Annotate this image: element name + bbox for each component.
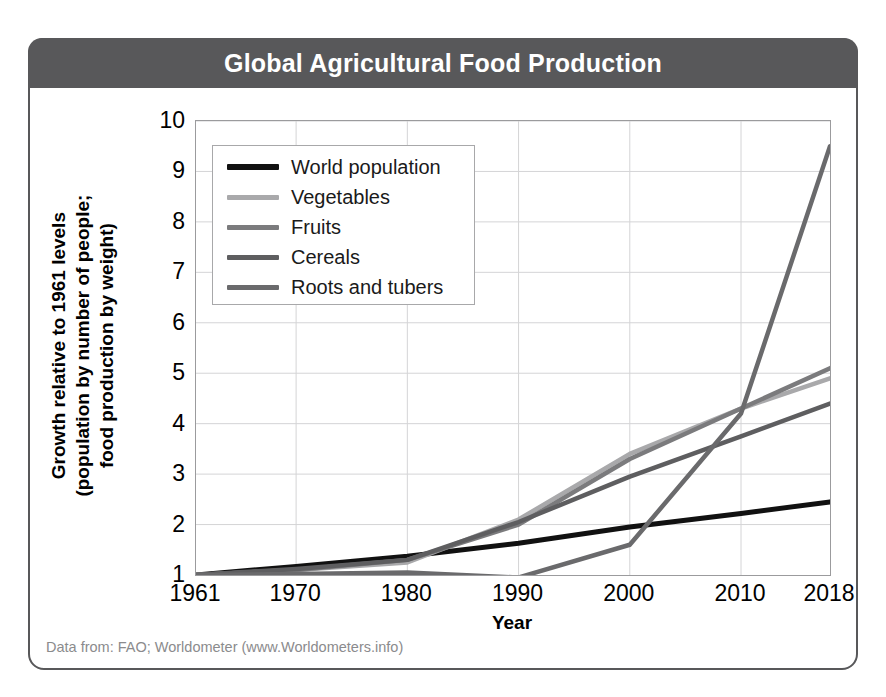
y-tick-label: 2: [143, 510, 185, 537]
chart-legend: World populationVegetablesFruitsCerealsR…: [212, 145, 475, 305]
legend-swatch-icon: [227, 225, 279, 230]
legend-item-label: Fruits: [291, 216, 341, 239]
card-header: Global Agricultural Food Production: [28, 38, 858, 88]
series-line-cereals: [196, 403, 830, 575]
source-footnote: Data from: FAO; Worldometer (www.Worldom…: [46, 639, 403, 655]
y-tick-label: 10: [143, 107, 185, 134]
y-axis-title: Growth relative to 1961 levels (populati…: [28, 96, 138, 596]
y-tick-label: 4: [143, 409, 185, 436]
legend-item[interactable]: Fruits: [213, 212, 474, 242]
x-tick-label: 1970: [270, 580, 321, 607]
page-title: Global Agricultural Food Production: [224, 49, 662, 78]
x-tick-label: 1990: [492, 580, 543, 607]
x-tick-label: 2010: [714, 580, 765, 607]
chart-page: Global Agricultural Food Production Grow…: [0, 0, 886, 697]
x-tick-label: 1980: [381, 580, 432, 607]
y-axis-title-line-2: (population by number of people;: [72, 195, 93, 497]
legend-item-label: Cereals: [291, 246, 360, 269]
legend-swatch-icon: [227, 285, 279, 290]
y-tick-label: 6: [143, 308, 185, 335]
legend-item-label: World population: [291, 156, 441, 179]
x-tick-label: 1961: [169, 580, 220, 607]
legend-swatch-icon: [227, 164, 279, 170]
y-tick-label: 9: [143, 157, 185, 184]
y-tick-label: 7: [143, 258, 185, 285]
y-tick-label: 5: [143, 359, 185, 386]
y-axis-title-line-1: Growth relative to 1961 levels: [48, 212, 69, 479]
legend-item[interactable]: Cereals: [213, 242, 474, 272]
y-tick-label: 8: [143, 207, 185, 234]
y-axis-title-line-3: food production by weight): [96, 224, 117, 469]
legend-swatch-icon: [227, 255, 279, 260]
series-line-world-population: [196, 502, 830, 575]
x-axis-title: Year: [195, 612, 829, 634]
x-tick-label: 2018: [803, 580, 854, 607]
legend-item[interactable]: Vegetables: [213, 182, 474, 212]
legend-item-label: Roots and tubers: [291, 276, 443, 299]
legend-swatch-icon: [227, 195, 279, 200]
x-tick-label: 2000: [603, 580, 654, 607]
legend-item[interactable]: World population: [213, 152, 474, 182]
legend-item[interactable]: Roots and tubers: [213, 272, 474, 302]
legend-item-label: Vegetables: [291, 186, 390, 209]
y-tick-label: 3: [143, 460, 185, 487]
